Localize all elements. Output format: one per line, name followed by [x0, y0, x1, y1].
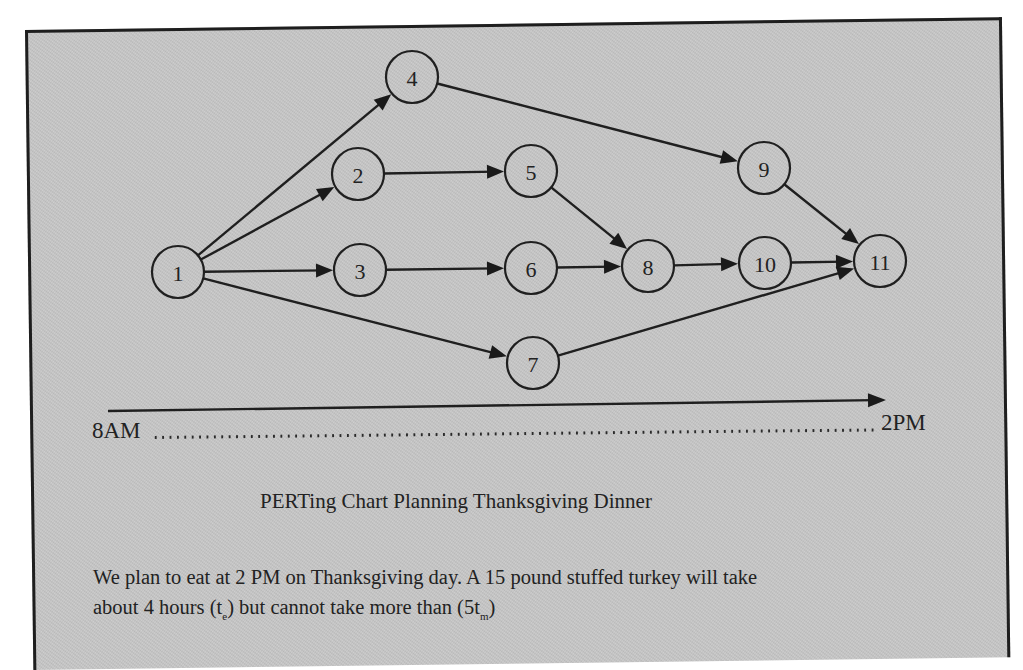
node-3: 3 — [334, 244, 386, 296]
timeline-start-label: 8AM — [92, 418, 141, 444]
edge-3-to-6 — [386, 268, 496, 269]
node-2: 2 — [332, 148, 384, 200]
node-label: 8 — [643, 255, 654, 280]
arrowhead-icon — [609, 233, 627, 249]
description-line-2-post: ) — [488, 596, 495, 618]
edge-2-to-5 — [384, 172, 496, 174]
arrowhead-icon — [489, 345, 507, 359]
node-label: 2 — [353, 163, 364, 188]
chart-title: PERTing Chart Planning Thanksgiving Dinn… — [260, 489, 652, 513]
arrowhead-icon — [836, 255, 853, 269]
edge-1-to-7 — [203, 278, 499, 354]
edge-9-to-11 — [784, 184, 852, 239]
node-label: 7 — [528, 352, 539, 377]
arrowhead-icon — [604, 260, 621, 274]
timeline-line — [108, 400, 874, 411]
timeline-end-label: 2PM — [881, 410, 926, 436]
edges-layer — [198, 84, 859, 359]
description-line-2-pre: about 4 hours (t — [93, 596, 222, 618]
node-label: 6 — [526, 257, 537, 282]
arrowhead-icon — [721, 257, 738, 271]
node-8: 8 — [622, 240, 674, 292]
node-label: 4 — [407, 66, 418, 91]
arrowhead-icon — [720, 150, 738, 164]
timeline-arrow — [108, 393, 886, 411]
arrowhead-icon — [487, 262, 504, 276]
edge-1-to-3 — [204, 270, 325, 271]
node-label: 1 — [173, 261, 184, 286]
node-label: 11 — [869, 250, 890, 275]
node-1: 1 — [152, 246, 204, 298]
edge-7-to-11 — [558, 271, 846, 356]
arrowhead-icon — [868, 393, 886, 407]
node-6: 6 — [505, 242, 557, 294]
node-label: 9 — [759, 157, 770, 182]
nodes-layer: 1234567891011 — [152, 51, 906, 389]
node-10: 10 — [739, 237, 791, 289]
arrowhead-icon — [841, 228, 859, 244]
description-line-2-mid: ) but cannot take more than (5t — [227, 596, 480, 618]
arrowhead-icon — [487, 165, 504, 179]
node-label: 5 — [526, 160, 537, 185]
node-label: 3 — [355, 259, 366, 284]
node-5: 5 — [505, 145, 557, 197]
edge-4-to-9 — [437, 84, 730, 160]
node-4: 4 — [386, 51, 438, 103]
edge-5-to-8 — [551, 187, 621, 244]
arrowhead-icon — [836, 267, 854, 280]
arrowhead-icon — [316, 263, 333, 277]
description-line-1: We plan to eat at 2 PM on Thanksgiving d… — [93, 566, 757, 588]
description-paragraph: We plan to eat at 2 PM on Thanksgiving d… — [93, 562, 973, 631]
node-11: 11 — [854, 235, 906, 287]
node-7: 7 — [507, 337, 559, 389]
node-9: 9 — [738, 142, 790, 194]
node-label: 10 — [754, 252, 776, 277]
